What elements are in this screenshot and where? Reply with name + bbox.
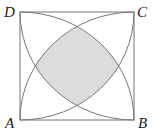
shaded-region	[35, 27, 120, 104]
label-d: D	[3, 4, 15, 20]
label-a: A	[4, 115, 15, 131]
label-b: B	[138, 115, 147, 131]
geometry-diagram: D C A B	[0, 0, 154, 131]
label-c: C	[137, 4, 148, 20]
